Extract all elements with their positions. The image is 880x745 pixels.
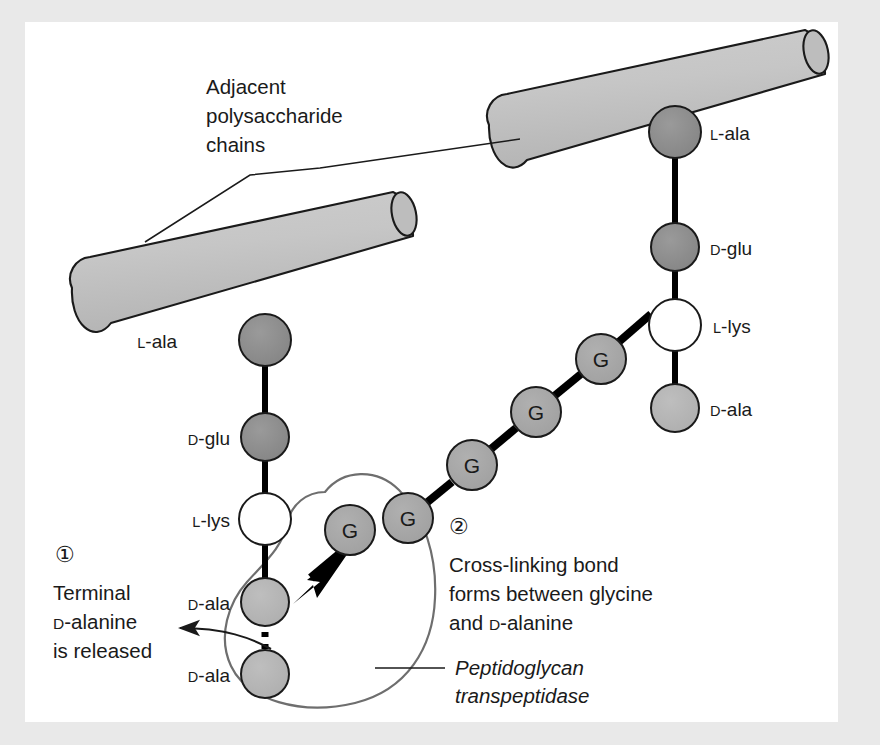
residue-label-d-ala-left-1: D-ala bbox=[188, 593, 231, 614]
chains-callout-line3: chains bbox=[206, 133, 265, 156]
glycine-residue-1: G bbox=[576, 334, 626, 384]
residue-d-glu-right bbox=[651, 223, 699, 271]
step1-line1: Terminal bbox=[53, 581, 130, 604]
chains-callout-line2: polysaccharide bbox=[206, 104, 343, 127]
residue-label-d-ala-left-2: D-ala bbox=[188, 665, 231, 686]
glycine-letter-1: G bbox=[593, 348, 609, 371]
step1-line2: D-alanine bbox=[53, 610, 137, 633]
step1-number: ① bbox=[55, 542, 75, 567]
step2-number: ② bbox=[449, 514, 469, 539]
glycine-letter-2: G bbox=[528, 401, 544, 424]
residue-l-lys-left bbox=[239, 493, 291, 545]
figure-frame: Adjacent polysaccharide chains Peptidogl… bbox=[0, 0, 880, 745]
residue-label-l-ala-right: L-ala bbox=[710, 123, 750, 144]
chains-callout-line1: Adjacent bbox=[206, 75, 286, 98]
residue-label-d-glu-right: D-glu bbox=[710, 238, 752, 259]
polysaccharide-cylinder-left bbox=[70, 190, 420, 332]
residue-label-d-ala-right: D-ala bbox=[710, 399, 753, 420]
residue-label-d-glu-left: D-glu bbox=[188, 428, 230, 449]
transpeptidase-label-line1: Peptidoglycan bbox=[455, 656, 584, 679]
residue-d-ala-right bbox=[651, 384, 699, 432]
glycine-letter-4: G bbox=[400, 507, 416, 530]
residue-label-l-lys-left: L-lys bbox=[192, 510, 230, 531]
step1-line3: is released bbox=[53, 639, 152, 662]
glycine-residue-5: G bbox=[325, 505, 375, 555]
residue-l-ala-left bbox=[239, 314, 291, 366]
glycine-residue-4: G bbox=[383, 493, 433, 543]
glycine-residue-3: G bbox=[447, 440, 497, 490]
peptidoglycan-diagram: Adjacent polysaccharide chains Peptidogl… bbox=[25, 22, 838, 722]
figure-canvas: Adjacent polysaccharide chains Peptidogl… bbox=[25, 22, 838, 722]
residue-l-lys-right bbox=[649, 299, 701, 351]
residue-d-ala-left-1 bbox=[241, 578, 289, 626]
glycine-residue-2: G bbox=[511, 387, 561, 437]
residue-label-l-lys-right: L-lys bbox=[713, 316, 751, 337]
glycine-letter-3: G bbox=[464, 454, 480, 477]
residue-label-l-ala-left: L-ala bbox=[137, 331, 177, 352]
step2-line2: forms between glycine bbox=[449, 582, 653, 605]
step2-line1: Cross-linking bond bbox=[449, 553, 619, 576]
transpeptidase-label-line2: transpeptidase bbox=[455, 684, 589, 707]
glycine-letter-5: G bbox=[342, 519, 358, 542]
residue-d-ala-left-2 bbox=[241, 650, 289, 698]
residue-l-ala-right bbox=[649, 106, 701, 158]
step2-line3: and D-alanine bbox=[449, 611, 573, 634]
residue-d-glu-left bbox=[241, 413, 289, 461]
